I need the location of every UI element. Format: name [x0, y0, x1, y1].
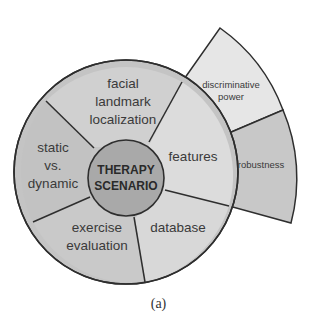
label-landmark: landmark — [95, 94, 151, 109]
label-features: features — [169, 149, 218, 164]
label-power: power — [218, 91, 244, 102]
center-label-line2: SCENARIO — [94, 179, 157, 193]
label-facial: facial — [107, 76, 139, 91]
label-evaluation: evaluation — [66, 238, 128, 253]
label-localization: localization — [90, 112, 157, 127]
center-circle — [88, 140, 164, 216]
label-robustness: robustness — [238, 159, 285, 170]
label-dynamic: dynamic — [28, 176, 79, 191]
label-database: database — [150, 220, 206, 235]
label-exercise: exercise — [72, 220, 122, 235]
center-label-line1: THERAPY — [97, 163, 154, 177]
figure-caption: (a) — [0, 296, 317, 312]
label-vs: vs. — [44, 158, 61, 173]
label-static: static — [37, 140, 69, 155]
label-discriminative: discriminative — [202, 79, 260, 90]
therapy-scenario-diagram: THERAPY SCENARIO facial landmark localiz… — [0, 0, 317, 290]
